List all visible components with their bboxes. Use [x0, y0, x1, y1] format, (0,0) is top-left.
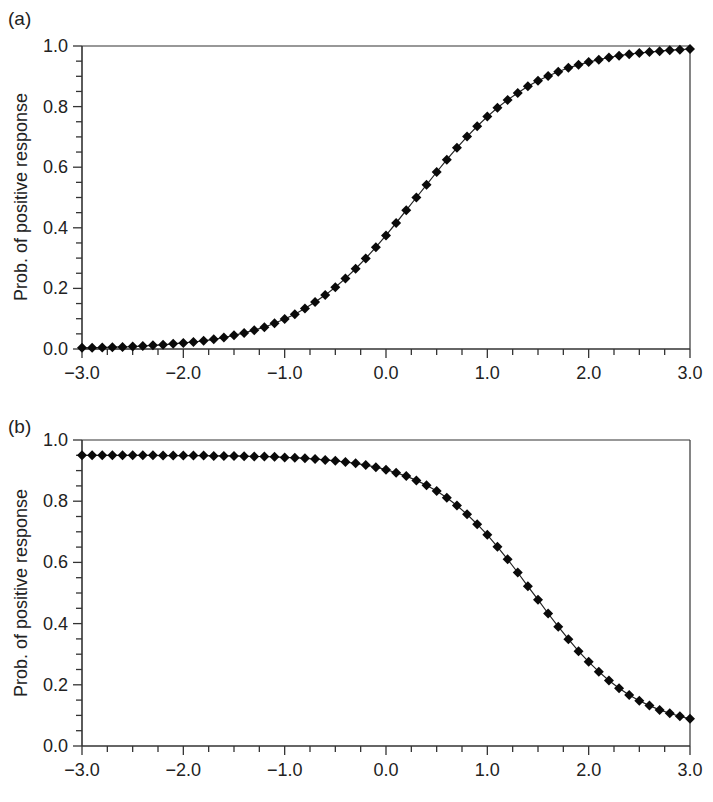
plot-area-b: 0.00.20.40.60.81.0−3.0−2.0−1.00.01.02.03… — [0, 396, 713, 802]
data-point-diamond-icon — [239, 328, 249, 338]
data-point-diamond-icon — [624, 49, 634, 59]
y-tick-label: 0.4 — [43, 614, 68, 634]
data-point-diamond-icon — [513, 567, 523, 577]
data-point-diamond-icon — [533, 76, 543, 86]
data-point-diamond-icon — [371, 462, 381, 472]
y-tick-label: 0.6 — [43, 552, 68, 572]
data-point-diamond-icon — [320, 455, 330, 465]
data-point-diamond-icon — [209, 451, 219, 461]
data-point-diamond-icon — [128, 450, 138, 460]
data-point-diamond-icon — [118, 450, 128, 460]
data-point-diamond-icon — [199, 336, 209, 346]
x-tick-label: 0.0 — [373, 363, 398, 383]
data-point-diamond-icon — [168, 451, 178, 461]
y-tick-label: 0.8 — [43, 97, 68, 117]
data-point-diamond-icon — [594, 55, 604, 65]
chart-panel-b: (b) 0.00.20.40.60.81.0−3.0−2.0−1.00.01.0… — [0, 396, 713, 797]
data-point-diamond-icon — [320, 290, 330, 300]
data-point-diamond-icon — [644, 701, 654, 711]
data-point-diamond-icon — [188, 451, 198, 461]
data-point-diamond-icon — [614, 683, 624, 693]
data-point-diamond-icon — [280, 314, 290, 324]
y-tick-label: 1.0 — [43, 430, 68, 450]
y-tick-label: 1.0 — [43, 36, 68, 56]
data-point-diamond-icon — [87, 450, 97, 460]
y-tick-label: 0.4 — [43, 218, 68, 238]
y-tick-label: 0.6 — [43, 157, 68, 177]
data-point-diamond-icon — [351, 458, 361, 468]
data-point-diamond-icon — [391, 468, 401, 478]
data-point-diamond-icon — [381, 465, 391, 475]
data-point-diamond-icon — [340, 457, 350, 467]
data-point-diamond-icon — [280, 452, 290, 462]
data-point-diamond-icon — [199, 451, 209, 461]
data-point-diamond-icon — [644, 47, 654, 57]
data-point-diamond-icon — [543, 71, 553, 81]
x-tick-label: −1.0 — [267, 363, 303, 383]
data-point-diamond-icon — [148, 450, 158, 460]
x-tick-label: 2.0 — [576, 760, 601, 780]
data-point-diamond-icon — [513, 88, 523, 98]
data-point-diamond-icon — [229, 451, 239, 461]
chart-panel-a: (a) 0.00.20.40.60.81.0−3.0−2.0−1.00.01.0… — [0, 0, 713, 401]
data-point-diamond-icon — [259, 322, 269, 332]
x-tick-label: 3.0 — [677, 363, 702, 383]
data-point-diamond-icon — [178, 451, 188, 461]
x-tick-label: 1.0 — [475, 363, 500, 383]
data-series-line — [82, 455, 690, 719]
data-point-diamond-icon — [361, 460, 371, 470]
x-tick-label: 2.0 — [576, 363, 601, 383]
data-point-diamond-icon — [209, 334, 219, 344]
data-point-diamond-icon — [533, 595, 543, 605]
data-point-diamond-icon — [118, 342, 128, 352]
data-point-diamond-icon — [219, 451, 229, 461]
x-tick-label: 0.0 — [373, 760, 398, 780]
x-tick-label: −1.0 — [267, 760, 303, 780]
x-tick-label: −2.0 — [166, 363, 202, 383]
y-tick-label: 0.0 — [43, 339, 68, 359]
x-tick-label: −2.0 — [166, 760, 202, 780]
data-point-diamond-icon — [655, 705, 665, 715]
data-point-diamond-icon — [290, 453, 300, 463]
data-point-diamond-icon — [574, 60, 584, 70]
data-point-diamond-icon — [401, 471, 411, 481]
data-point-diamond-icon — [300, 303, 310, 313]
data-point-diamond-icon — [503, 95, 513, 105]
y-tick-label: 0.2 — [43, 278, 68, 298]
y-tick-label: 0.2 — [43, 675, 68, 695]
data-point-diamond-icon — [168, 339, 178, 349]
data-point-diamond-icon — [422, 480, 432, 490]
data-point-diamond-icon — [249, 325, 259, 335]
data-point-diamond-icon — [655, 46, 665, 56]
data-point-diamond-icon — [411, 475, 421, 485]
data-point-diamond-icon — [624, 690, 634, 700]
data-point-diamond-icon — [310, 454, 320, 464]
y-tick-label: 0.0 — [43, 736, 68, 756]
data-point-diamond-icon — [77, 450, 87, 460]
data-point-diamond-icon — [229, 330, 239, 340]
data-point-diamond-icon — [178, 338, 188, 348]
data-point-diamond-icon — [523, 581, 533, 591]
data-point-diamond-icon — [300, 453, 310, 463]
data-point-diamond-icon — [543, 609, 553, 619]
data-point-diamond-icon — [634, 48, 644, 58]
x-tick-label: −3.0 — [64, 760, 100, 780]
data-point-diamond-icon — [614, 51, 624, 61]
data-point-diamond-icon — [563, 63, 573, 73]
y-tick-label: 0.8 — [43, 491, 68, 511]
data-point-diamond-icon — [259, 452, 269, 462]
x-tick-label: −3.0 — [64, 363, 100, 383]
data-point-diamond-icon — [107, 342, 117, 352]
plot-area-a: 0.00.20.40.60.81.0−3.0−2.0−1.00.01.02.03… — [0, 0, 713, 401]
data-point-diamond-icon — [665, 45, 675, 55]
data-point-diamond-icon — [634, 696, 644, 706]
y-axis-label-a: Prob. of positive response — [11, 93, 32, 301]
data-point-diamond-icon — [128, 342, 138, 352]
data-point-diamond-icon — [107, 450, 117, 460]
y-axis-label-b: Prob. of positive response — [11, 489, 32, 697]
data-point-diamond-icon — [77, 343, 87, 353]
data-point-diamond-icon — [310, 297, 320, 307]
data-point-diamond-icon — [158, 451, 168, 461]
data-series-line — [82, 49, 690, 348]
data-point-diamond-icon — [665, 708, 675, 718]
